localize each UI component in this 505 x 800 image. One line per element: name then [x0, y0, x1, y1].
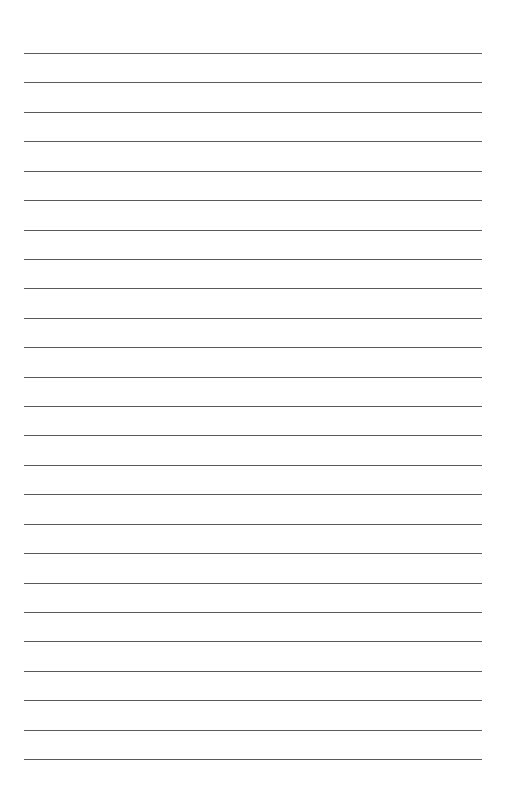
- ruled-line: [24, 435, 482, 436]
- ruled-line: [24, 494, 482, 495]
- ruled-line: [24, 730, 482, 731]
- ruled-line: [24, 141, 482, 142]
- ruled-line: [24, 465, 482, 466]
- ruled-line: [24, 553, 482, 554]
- ruled-line: [24, 377, 482, 378]
- ruled-line: [24, 112, 482, 113]
- ruled-line: [24, 259, 482, 260]
- ruled-line: [24, 671, 482, 672]
- ruled-line: [24, 288, 482, 289]
- ruled-line: [24, 318, 482, 319]
- ruled-line: [24, 200, 482, 201]
- ruled-line: [24, 171, 482, 172]
- ruled-line: [24, 230, 482, 231]
- ruled-line: [24, 524, 482, 525]
- ruled-line: [24, 406, 482, 407]
- ruled-line: [24, 700, 482, 701]
- ruled-line: [24, 347, 482, 348]
- ruled-line: [24, 759, 482, 760]
- ruled-line: [24, 82, 482, 83]
- ruled-line: [24, 641, 482, 642]
- ruled-line: [24, 612, 482, 613]
- lined-page: [0, 0, 505, 800]
- ruled-line: [24, 53, 482, 54]
- ruled-line: [24, 583, 482, 584]
